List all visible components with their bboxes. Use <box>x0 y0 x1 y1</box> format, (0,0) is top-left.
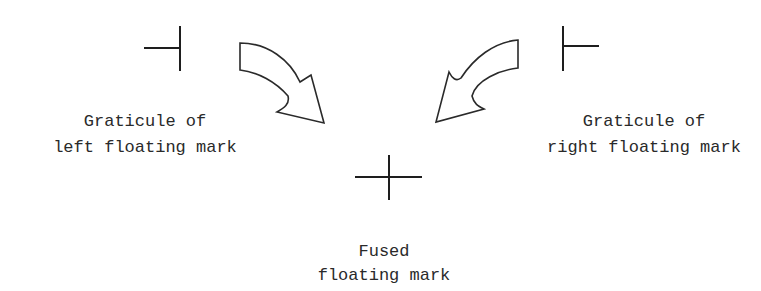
fused-mark-label-line1: Fused <box>358 242 409 261</box>
floating-mark-diagram: Graticule of left floating mark Graticul… <box>0 0 761 291</box>
left-mark-label-line2: left floating mark <box>53 138 237 157</box>
fused-floating-mark-icon <box>356 156 421 199</box>
left-mark-label-line1: Graticule of <box>84 112 206 131</box>
right-floating-mark-icon <box>563 27 598 70</box>
right-mark-label-line1: Graticule of <box>583 112 705 131</box>
right-mark-label-line2: right floating mark <box>547 138 741 157</box>
left-floating-mark-icon <box>145 27 180 70</box>
fused-mark-label-line2: floating mark <box>318 266 451 285</box>
curved-arrow-down-left-icon <box>436 40 518 122</box>
curved-arrow-down-right-icon <box>240 43 324 123</box>
